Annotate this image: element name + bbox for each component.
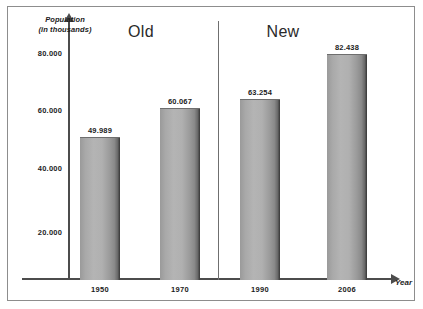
y-tick-label-80000: 80.000 — [10, 49, 62, 58]
y-tick-label-60000: 60.000 — [10, 106, 62, 115]
bar-1990[interactable] — [240, 99, 280, 280]
y-tick-label-40000: 40.000 — [10, 164, 62, 173]
y-tick-label-20000: 20.000 — [10, 228, 62, 237]
y-axis-line — [68, 21, 70, 280]
chart-frame: Population (in thousands) Year 80.000 60… — [7, 6, 415, 301]
plot-area: Population (in thousands) Year 80.000 60… — [8, 7, 414, 300]
bar-value-label-1970: 60.067 — [145, 97, 215, 106]
bar-category-label-2006: 2006 — [312, 285, 382, 294]
bar-1970[interactable] — [160, 108, 200, 280]
section-heading-old: Old — [81, 23, 201, 41]
section-divider — [218, 21, 219, 280]
bar-1950[interactable] — [80, 137, 120, 280]
x-axis-title: Year — [395, 278, 412, 287]
section-heading-new: New — [223, 23, 343, 41]
bar-value-label-2006: 82.438 — [312, 43, 382, 52]
bar-category-label-1970: 1970 — [145, 285, 215, 294]
bar-category-label-1950: 1950 — [65, 285, 135, 294]
bar-category-label-1990: 1990 — [225, 285, 295, 294]
bar-2006[interactable] — [327, 54, 367, 280]
bar-value-label-1990: 63.254 — [225, 88, 295, 97]
bar-value-label-1950: 49.989 — [65, 126, 135, 135]
